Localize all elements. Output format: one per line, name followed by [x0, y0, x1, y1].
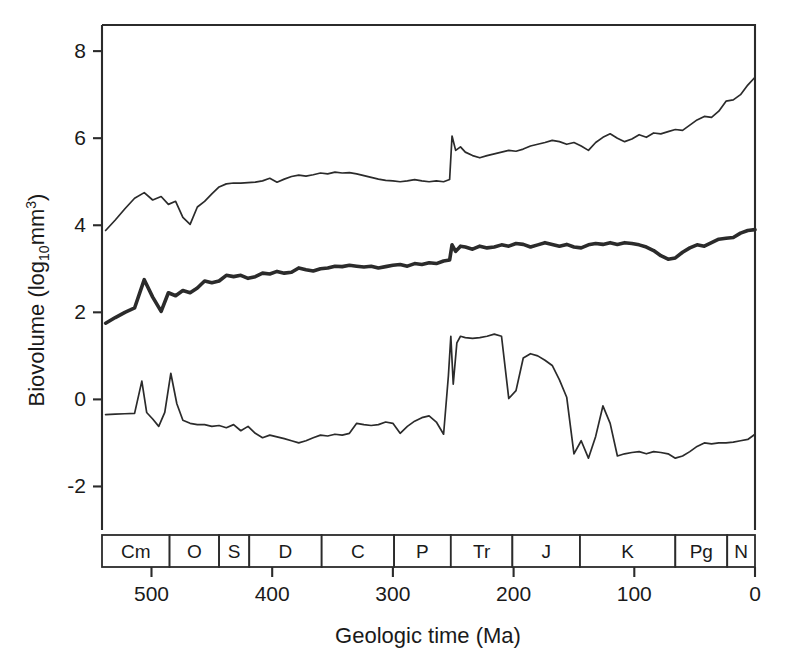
period-label-D: D: [279, 541, 293, 562]
x-tick-label: 100: [617, 582, 652, 605]
y-tick-label: 0: [74, 387, 86, 410]
plot-frame: [102, 25, 755, 530]
period-label-C: C: [351, 541, 365, 562]
x-tick-label: 300: [375, 582, 410, 605]
period-label-J: J: [541, 541, 551, 562]
geologic-period-bar: CmOSDCPTrJKPgN: [102, 535, 755, 567]
period-label-N: N: [734, 541, 748, 562]
y-tick-label: -2: [67, 474, 86, 497]
y-tick-label: 6: [74, 126, 86, 149]
y-tick-label: 4: [74, 213, 86, 236]
biovolume-chart-figure: 86420-25004003002001000 CmOSDCPTrJKPgN G…: [0, 0, 785, 659]
x-tick-label: 200: [496, 582, 531, 605]
axis-layer: 86420-25004003002001000: [67, 25, 761, 605]
series-minimum-biovolume: [106, 334, 755, 458]
period-label-Tr: Tr: [473, 541, 491, 562]
period-label-K: K: [621, 541, 634, 562]
x-tick-label: 500: [134, 582, 169, 605]
x-tick-label: 400: [255, 582, 290, 605]
period-label-Pg: Pg: [690, 541, 713, 562]
series-mean-biovolume: [106, 230, 755, 324]
x-axis-title: Geologic time (Ma): [335, 623, 521, 648]
y-tick-label: 8: [74, 39, 86, 62]
series-maximum-biovolume: [106, 77, 755, 230]
period-label-O: O: [187, 541, 202, 562]
y-tick-label: 2: [74, 300, 86, 323]
y-axis-title: Biovolume (log10mm3): [23, 194, 52, 407]
series-layer: [106, 77, 755, 458]
period-label-S: S: [228, 541, 241, 562]
period-label-P: P: [416, 541, 429, 562]
x-tick-label: 0: [749, 582, 761, 605]
period-label-Cm: Cm: [121, 541, 151, 562]
chart-canvas: 86420-25004003002001000 CmOSDCPTrJKPgN G…: [0, 0, 785, 659]
